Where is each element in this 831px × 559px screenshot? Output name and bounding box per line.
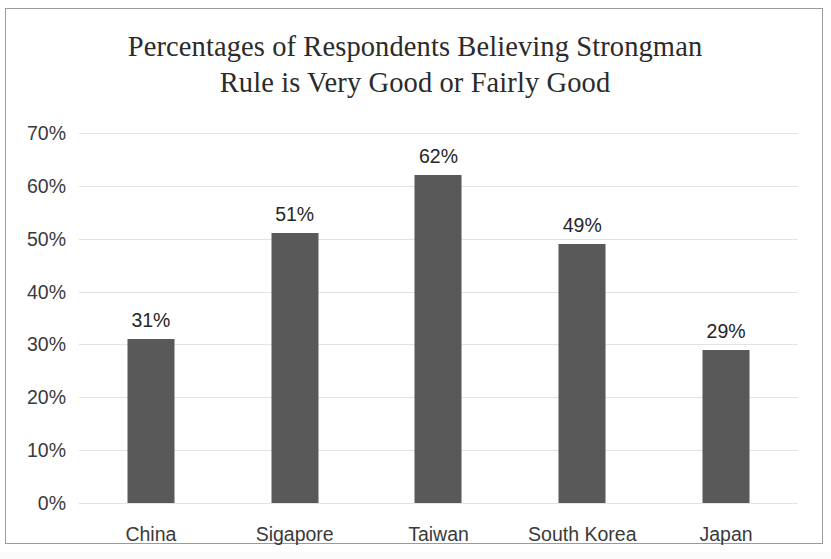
scan-edge [0,552,831,559]
bar-value-3: 49% [563,214,602,237]
ytick-label-0: 0% [38,492,66,515]
bar-0[interactable] [127,339,174,503]
plot-area: 70% 60% 50% 40% 30% 20% 10% 0% 31% China… [79,133,798,503]
ytick-label-60: 60% [27,174,66,197]
bar-4[interactable] [703,350,750,503]
chart-figure: Percentages of Respondents Believing Str… [5,8,823,544]
gridline-0 [79,503,798,504]
ytick-label-10: 10% [27,439,66,462]
bar-3[interactable] [559,244,606,503]
category-label-0: China [125,523,176,546]
category-label-4: Japan [700,523,753,546]
ytick-label-40: 40% [27,280,66,303]
ytick-label-50: 50% [27,227,66,250]
category-label-3: South Korea [528,523,636,546]
bar-1[interactable] [271,233,318,503]
bar-value-4: 29% [707,320,746,343]
bar-value-0: 31% [131,309,170,332]
ytick-label-20: 20% [27,386,66,409]
bar-value-1: 51% [275,203,314,226]
category-label-1: Sigapore [256,523,334,546]
bar-slot-3: 49% South Korea [510,133,654,503]
bar-2[interactable] [415,175,462,503]
bar-slot-4: 29% Japan [654,133,798,503]
category-label-2: Taiwan [408,523,469,546]
bar-slot-2: 62% Taiwan [367,133,511,503]
chart-title: Percentages of Respondents Believing Str… [6,29,824,101]
ytick-label-70: 70% [27,122,66,145]
ytick-label-30: 30% [27,333,66,356]
bar-value-2: 62% [419,145,458,168]
bar-slot-0: 31% China [79,133,223,503]
chart-title-text: Percentages of Respondents Believing Str… [128,31,703,98]
bar-slot-1: 51% Sigapore [223,133,367,503]
